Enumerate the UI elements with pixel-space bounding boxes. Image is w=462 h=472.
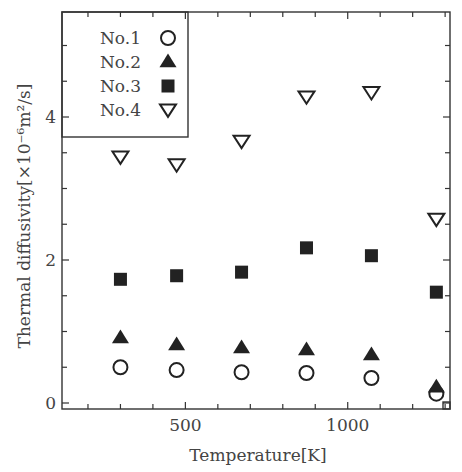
legend-open-circle-icon bbox=[161, 31, 175, 45]
legend: No.1No.2No.3No.4 bbox=[62, 12, 188, 137]
open-triangle-down-marker-icon bbox=[428, 214, 444, 226]
filled-triangle-marker-icon bbox=[428, 379, 445, 393]
open-circle-marker-icon bbox=[364, 371, 378, 385]
filled-square-marker-icon bbox=[430, 286, 443, 299]
filled-square-marker-icon bbox=[300, 241, 313, 254]
filled-square-marker-icon bbox=[170, 269, 183, 282]
x-tick-label: 1000 bbox=[326, 415, 369, 435]
open-circle-marker-icon bbox=[170, 363, 184, 377]
filled-triangle-marker-icon bbox=[112, 329, 129, 343]
open-circle-marker-icon bbox=[235, 365, 249, 379]
legend-label: No.4 bbox=[100, 100, 141, 120]
tick-labels: 5001000024 bbox=[45, 107, 369, 435]
open-triangle-down-marker-icon bbox=[169, 159, 185, 171]
filled-square-marker-icon bbox=[114, 273, 127, 286]
filled-triangle-marker-icon bbox=[168, 337, 185, 351]
open-triangle-down-marker-icon bbox=[112, 151, 128, 163]
filled-triangle-marker-icon bbox=[233, 339, 250, 353]
legend-filled-triangle-up-icon bbox=[160, 54, 177, 68]
open-triangle-down-marker-icon bbox=[363, 87, 379, 99]
open-triangle-down-marker-icon bbox=[298, 91, 314, 103]
legend-label: No.3 bbox=[100, 76, 141, 96]
filled-square-marker-icon bbox=[235, 266, 248, 279]
data-points bbox=[112, 87, 445, 401]
y-axis-label: Thermal diffusivity[×10⁻⁶m²/s] bbox=[14, 84, 34, 349]
filled-triangle-marker-icon bbox=[363, 347, 380, 361]
y-tick-label: 2 bbox=[45, 250, 56, 270]
open-circle-marker-icon bbox=[113, 360, 127, 374]
x-axis-label: Temperature[K] bbox=[189, 445, 326, 465]
legend-label: No.2 bbox=[100, 52, 141, 72]
y-tick-label: 0 bbox=[45, 393, 56, 413]
legend-filled-square-icon bbox=[162, 80, 175, 93]
filled-square-marker-icon bbox=[365, 249, 378, 262]
legend-label: No.1 bbox=[100, 28, 141, 48]
filled-triangle-marker-icon bbox=[298, 342, 315, 356]
open-triangle-down-marker-icon bbox=[234, 136, 250, 148]
chart-canvas: 5001000024 No.1No.2No.3No.4 Temperature[… bbox=[0, 0, 462, 472]
legend-open-triangle-down-icon bbox=[160, 104, 176, 116]
x-tick-label: 500 bbox=[169, 415, 201, 435]
open-circle-marker-icon bbox=[299, 366, 313, 380]
y-tick-label: 4 bbox=[45, 107, 56, 127]
